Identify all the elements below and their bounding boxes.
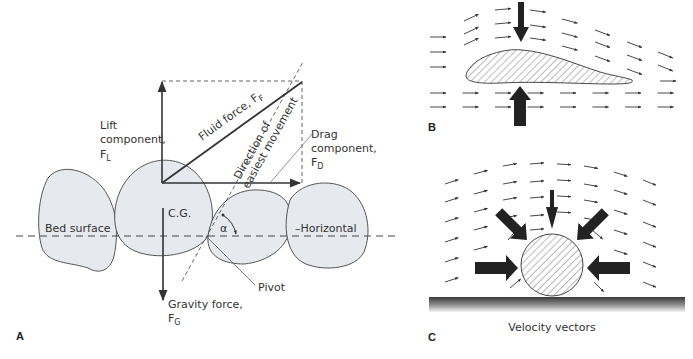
velocity-vector xyxy=(614,190,627,194)
velocity-vectors-caption: Velocity vectors xyxy=(508,321,596,334)
velocity-vector xyxy=(643,180,656,185)
thick-arrow-right xyxy=(587,255,630,281)
velocity-vector xyxy=(557,180,571,181)
velocity-vector xyxy=(614,172,627,176)
airfoil xyxy=(466,50,632,84)
horizontal-label: –Horizontal xyxy=(295,222,357,235)
grain-left xyxy=(39,169,117,271)
velocity-vector xyxy=(445,238,458,242)
velocity-vector xyxy=(627,55,642,61)
velocity-vector xyxy=(614,250,627,254)
lift-label-line2: component, xyxy=(100,133,166,146)
velocity-vector xyxy=(643,282,656,287)
velocity-vector xyxy=(594,282,604,292)
velocity-vector xyxy=(658,52,673,58)
thick-arrow-upper-right xyxy=(569,204,613,248)
velocity-vector xyxy=(474,190,488,194)
gravity-symbol: FG xyxy=(168,312,181,327)
velocity-vector xyxy=(495,23,511,24)
thick-arrow-upper-left xyxy=(491,204,535,248)
velocity-vector xyxy=(474,226,488,230)
velocity-vector xyxy=(627,69,642,75)
velocity-vector xyxy=(627,42,642,48)
thick-arrow-left xyxy=(475,255,518,281)
panel-label-b: B xyxy=(428,121,436,133)
velocity-vector xyxy=(557,164,571,165)
velocity-vector xyxy=(495,9,511,10)
lift-symbol: FL xyxy=(100,148,111,163)
panel-label-a: A xyxy=(16,330,24,342)
velocity-vector xyxy=(445,278,458,282)
velocity-vector xyxy=(557,212,571,213)
velocity-vector xyxy=(643,262,656,267)
velocity-vector xyxy=(464,27,479,34)
drag-symbol: FD xyxy=(311,156,324,171)
cg-label: C.G. xyxy=(168,207,191,220)
figure-canvas: Lift component, FL Fluid force, FF Direc… xyxy=(0,0,693,359)
velocity-vector xyxy=(530,215,544,216)
velocity-vector xyxy=(445,258,458,262)
bed-surface-label: Bed surface xyxy=(45,222,111,235)
velocity-vector xyxy=(562,19,578,23)
drag-label-line2: component, xyxy=(311,142,377,155)
velocity-vector xyxy=(445,218,458,222)
velocity-vector xyxy=(503,164,517,166)
velocity-vector xyxy=(464,38,479,45)
drag-label-line1: Drag xyxy=(311,128,338,141)
velocity-vector xyxy=(530,163,544,164)
panel-c: Velocity vectors C xyxy=(428,163,685,343)
velocity-vector xyxy=(503,182,517,184)
velocity-vector xyxy=(584,166,598,168)
velocity-vector xyxy=(557,196,571,197)
velocity-vector xyxy=(445,180,458,184)
panel-label-c: C xyxy=(428,331,436,343)
lift-label-line1: Lift xyxy=(100,119,118,132)
velocity-vector xyxy=(614,230,627,234)
velocity-vector xyxy=(503,198,517,200)
velocity-vector xyxy=(464,14,479,21)
velocity-vector xyxy=(595,30,610,36)
velocity-vector xyxy=(530,181,544,182)
gravity-label: Gravity force, xyxy=(168,298,243,311)
alpha-label: α xyxy=(220,222,227,235)
velocity-vector xyxy=(562,33,578,37)
velocity-vector xyxy=(614,210,627,214)
lift-arrow-up xyxy=(509,86,531,126)
velocity-vector xyxy=(530,38,546,40)
velocity-vector xyxy=(595,42,610,48)
velocity-vector xyxy=(643,222,656,227)
panel-b: B xyxy=(428,2,676,133)
velocity-vector xyxy=(445,198,458,202)
bed-surface xyxy=(429,297,685,312)
velocity-vector xyxy=(595,56,610,62)
pivot-label: Pivot xyxy=(258,281,286,294)
velocity-vector xyxy=(474,246,488,250)
velocity-vector xyxy=(643,242,656,247)
velocity-vector xyxy=(530,10,546,12)
velocity-vector xyxy=(584,184,598,186)
alpha-arc-start xyxy=(222,214,225,217)
velocity-vector xyxy=(530,229,544,230)
velocity-vector xyxy=(643,200,656,205)
velocity-vector xyxy=(474,170,488,174)
velocity-vector xyxy=(592,230,603,239)
velocity-vector xyxy=(530,197,544,198)
pressure-arrow-down xyxy=(513,2,529,42)
velocity-vector xyxy=(510,279,521,288)
velocity-vector xyxy=(584,200,598,202)
velocity-vector xyxy=(474,208,488,212)
velocity-vector xyxy=(530,25,546,27)
velocity-vector xyxy=(658,65,673,71)
velocity-vector xyxy=(562,46,578,50)
panel-a: Lift component, FL Fluid force, FF Direc… xyxy=(16,62,400,342)
sphere xyxy=(521,234,583,296)
thick-arrow-top xyxy=(546,190,558,229)
velocity-vector xyxy=(495,37,511,38)
